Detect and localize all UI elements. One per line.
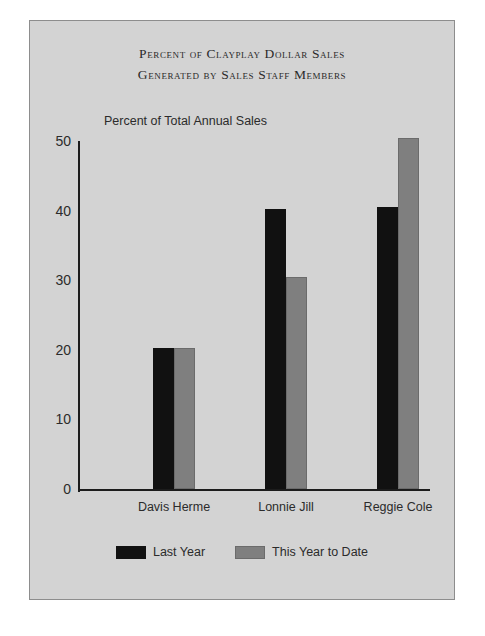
x-category-label: Davis Herme: [138, 500, 210, 514]
bar-last-year: [153, 348, 174, 489]
y-tick-label: 50: [55, 133, 71, 149]
bar-this-year: [286, 277, 307, 489]
chart-figure: Percent of Clayplay Dollar Sales Generat…: [29, 20, 455, 600]
x-category-label: Reggie Cole: [364, 500, 433, 514]
legend-swatch-icon: [235, 546, 265, 559]
legend-swatch-icon: [116, 546, 146, 559]
legend-item: This Year to Date: [235, 545, 368, 559]
y-axis-line: [78, 141, 80, 492]
x-category-label: Lonnie Jill: [258, 500, 314, 514]
bar-last-year: [377, 207, 398, 489]
legend-label: Last Year: [153, 545, 205, 559]
bar-this-year: [174, 348, 195, 489]
chart-subtitle: Generated by Sales Staff Members: [30, 64, 454, 85]
legend-item: Last Year: [116, 545, 205, 559]
y-tick-label: 40: [55, 203, 71, 219]
y-tick-label: 30: [55, 272, 71, 288]
legend-label: This Year to Date: [272, 545, 368, 559]
y-axis-title: Percent of Total Annual Sales: [104, 114, 267, 128]
chart-legend: Last YearThis Year to Date: [30, 545, 454, 559]
bar-last-year: [265, 209, 286, 489]
y-tick-label: 20: [55, 342, 71, 358]
plot-area: 01020304050 Davis HermeLonnie JillReggie…: [78, 141, 430, 491]
chart-title-block: Percent of Clayplay Dollar Sales Generat…: [30, 43, 454, 85]
chart-title: Percent of Clayplay Dollar Sales: [30, 43, 454, 64]
x-axis-line: [78, 489, 430, 491]
y-tick-label: 10: [55, 411, 71, 427]
bar-this-year: [398, 138, 419, 489]
y-tick-label: 0: [63, 481, 71, 497]
